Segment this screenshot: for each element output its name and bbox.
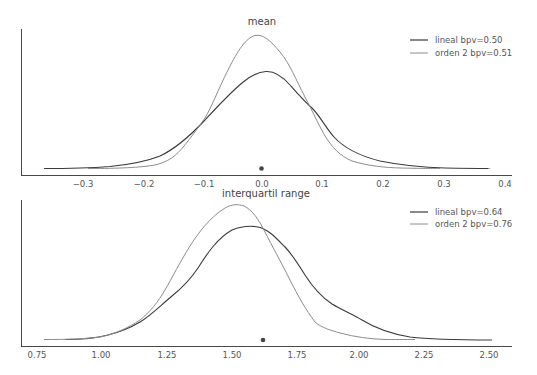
- x-tick: 1.25: [158, 350, 177, 360]
- x-tick: 2.25: [415, 350, 434, 360]
- x-tick: 1.75: [288, 350, 307, 360]
- legend-label-orden2: orden 2 bpv=0.51: [435, 48, 512, 58]
- kde-curve-orden2: [88, 35, 440, 168]
- x-tick: 2.50: [480, 350, 499, 360]
- legend-iqr: lineal bpv=0.64 orden 2 bpv=0.76: [410, 207, 512, 229]
- x-tick: 0.4: [498, 179, 512, 189]
- x-tick: 1.50: [223, 350, 242, 360]
- x-tick: −0.3: [73, 179, 94, 189]
- x-tick: 0.75: [28, 350, 47, 360]
- x-tick: 0.3: [437, 179, 451, 189]
- x-tick-labels: 0.75 1.00 1.25 1.50 1.75 2.00 2.25 2.50: [28, 350, 499, 360]
- figure: mean −0.3 −0.2 −0.1 0.0 0.1 0.2 0.3 0.4 …: [0, 0, 537, 375]
- plot-interquartil-range: interquartil range 0.75 1.00 1.25 1.50 1…: [21, 188, 512, 360]
- kde-curve-orden2: [44, 205, 415, 340]
- x-tick: 0.2: [376, 179, 390, 189]
- x-tick: 1.00: [92, 350, 111, 360]
- point-estimate-marker: [259, 166, 264, 171]
- legend-label-orden2: orden 2 bpv=0.76: [435, 219, 512, 229]
- x-tick: 0.1: [315, 179, 329, 189]
- x-tick: 2.00: [350, 350, 369, 360]
- plot-title-iqr: interquartil range: [222, 188, 310, 199]
- plot-title-mean: mean: [248, 16, 276, 27]
- kde-curve-lineal: [65, 226, 492, 340]
- point-estimate-marker: [261, 338, 266, 343]
- legend-label-lineal: lineal bpv=0.50: [435, 35, 502, 45]
- x-tick: −0.1: [194, 179, 215, 189]
- legend-label-lineal: lineal bpv=0.64: [435, 207, 502, 217]
- legend-mean: lineal bpv=0.50 orden 2 bpv=0.51: [410, 35, 512, 58]
- plot-mean: mean −0.3 −0.2 −0.1 0.0 0.1 0.2 0.3 0.4 …: [21, 16, 512, 189]
- kde-curve-lineal: [44, 71, 489, 168]
- x-tick: −0.2: [134, 179, 155, 189]
